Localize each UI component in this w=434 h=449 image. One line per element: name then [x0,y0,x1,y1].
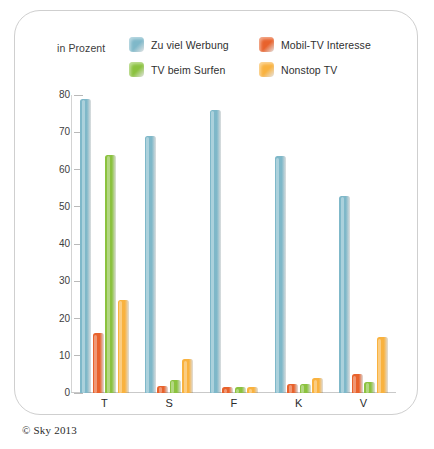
y-axis-tick-label: 50 [59,201,70,213]
bar[interactable] [157,386,168,393]
y-axis-tick-label: 40 [59,238,70,250]
bar[interactable] [235,387,246,393]
legend-item-mobil-tv-interesse[interactable]: Mobil-TV Interesse [259,37,371,52]
bar[interactable] [93,333,104,393]
bar-groups [72,95,396,393]
x-axis-label: K [266,397,331,409]
bar[interactable] [312,378,323,393]
x-axis-label: F [202,397,267,409]
legend-swatch-icon [129,37,144,52]
chart-card: in Prozent Zu viel Werbung Mobil-TV Inte… [14,10,418,415]
chart-screenshot: in Prozent Zu viel Werbung Mobil-TV Inte… [0,0,434,449]
bar[interactable] [182,359,193,393]
bar[interactable] [118,300,129,393]
legend-item-label: Mobil-TV Interesse [281,39,371,51]
bar[interactable] [145,136,156,393]
y-axis-tick-label: 30 [59,275,70,287]
y-axis-tick-label: 70 [59,126,70,138]
x-axis-label: S [137,397,202,409]
legend-item-nonstop-tv[interactable]: Nonstop TV [259,62,337,77]
bar[interactable] [210,110,221,393]
legend-swatch-icon [129,62,144,77]
x-axis-label: T [72,397,137,409]
bar[interactable] [170,380,181,393]
bar[interactable] [287,384,298,393]
copyright-credit: © Sky 2013 [22,424,77,436]
x-axis-label: V [331,397,396,409]
bar[interactable] [339,196,350,393]
y-axis-tick-label: 80 [59,89,70,101]
legend-item-label: Nonstop TV [281,64,337,76]
bar[interactable] [275,156,286,393]
legend-item-label: Zu viel Werbung [151,39,229,51]
legend-swatch-icon [259,62,274,77]
bar[interactable] [105,155,116,393]
legend-item-zu-viel-werbung[interactable]: Zu viel Werbung [129,37,229,52]
y-axis-tick-label: 60 [59,164,70,176]
bar[interactable] [364,382,375,393]
y-axis-tick-label: 10 [59,350,70,362]
plot-area: 01020304050607080 TSFKV [41,95,399,399]
bar-group-s [137,95,202,393]
bar-group-f [202,95,267,393]
legend-swatch-icon [259,37,274,52]
axis-unit-note: in Prozent [57,42,105,54]
bar-group-t [72,95,137,393]
x-axis-labels: TSFKV [72,397,396,409]
y-axis-tick-label: 20 [59,313,70,325]
bar[interactable] [80,99,91,393]
chart-legend: in Prozent Zu viel Werbung Mobil-TV Inte… [41,33,401,85]
y-axis-tick-label: 0 [64,387,70,399]
bar[interactable] [222,387,233,393]
legend-item-tv-beim-surfen[interactable]: TV beim Surfen [129,62,225,77]
bar-group-v [331,95,396,393]
bar-group-k [266,95,331,393]
bar[interactable] [377,337,388,393]
bar[interactable] [352,374,363,393]
bar[interactable] [247,387,258,393]
legend-item-label: TV beim Surfen [151,64,225,76]
bar[interactable] [300,384,311,393]
